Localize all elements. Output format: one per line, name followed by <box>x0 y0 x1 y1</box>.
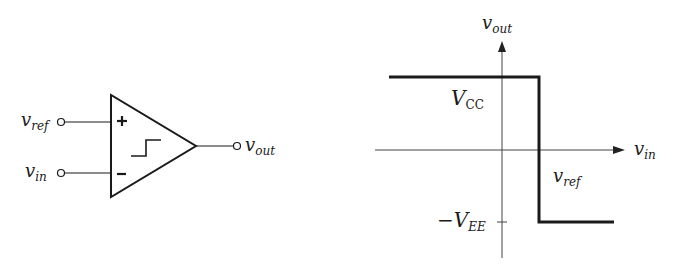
vref-input-label: vref <box>21 111 48 132</box>
vee-label: −VEE <box>437 210 486 233</box>
step-function-icon <box>131 140 161 156</box>
label-sub: CC <box>465 98 483 112</box>
diagram-canvas <box>0 0 691 264</box>
label-sub: in <box>35 170 47 184</box>
opamp-triangle <box>111 95 196 197</box>
y-axis-label: vout <box>482 14 512 35</box>
label-main: v <box>245 134 255 155</box>
vref-threshold-label: vref <box>553 167 580 188</box>
label-main: V <box>451 86 465 110</box>
label-main: v <box>21 109 31 130</box>
comparator-symbol <box>58 95 241 197</box>
label-sub: EE <box>468 220 486 234</box>
label-sub: ref <box>31 119 48 133</box>
label-main: V <box>454 208 468 232</box>
vin-input-label: vin <box>25 162 47 183</box>
output-terminal <box>234 143 241 150</box>
label-sub: out <box>255 144 275 158</box>
label-sub: ref <box>563 175 580 189</box>
minus-input-terminal <box>58 170 65 177</box>
vcc-label: VCC <box>451 88 484 111</box>
label-main: v <box>634 138 644 159</box>
label-main: v <box>25 160 35 181</box>
label-main: v <box>482 12 492 33</box>
label-prefix: − <box>437 208 454 232</box>
label-sub: out <box>492 22 512 36</box>
vout-output-label: vout <box>245 136 275 157</box>
x-axis-arrow-icon <box>613 146 625 154</box>
label-main: v <box>553 165 563 186</box>
label-sub: in <box>644 148 656 162</box>
y-axis-arrow-icon <box>498 41 506 52</box>
plus-input-terminal <box>58 119 65 126</box>
x-axis-label: vin <box>634 140 656 161</box>
transfer-graph <box>375 41 625 258</box>
